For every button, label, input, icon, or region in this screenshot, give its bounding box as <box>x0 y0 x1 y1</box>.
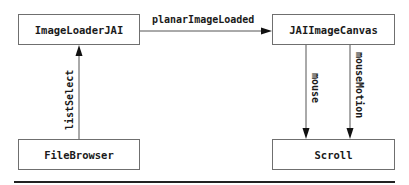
node-label: Scroll <box>315 149 353 161</box>
node-jai-image-canvas[interactable]: JAIImageCanvas <box>272 14 395 45</box>
edge-label-list-select: listSelect <box>64 70 75 130</box>
node-scroll[interactable]: Scroll <box>272 139 395 170</box>
bottom-divider <box>14 181 395 183</box>
edge-list-select <box>76 45 83 139</box>
node-label: JAIImageCanvas <box>289 24 378 36</box>
arrowhead-up-icon <box>76 45 83 56</box>
edge-planar-image-loaded <box>140 28 272 35</box>
node-image-loader-jai[interactable]: ImageLoaderJAI <box>18 14 140 45</box>
arrowhead-right-icon <box>261 28 272 35</box>
edge-label-planar-image-loaded: planarImageLoaded <box>152 14 254 25</box>
arrowhead-down-icon <box>347 128 354 139</box>
component-diagram: ImageLoaderJAI JAIImageCanvas FileBrowse… <box>0 0 409 185</box>
node-label: ImageLoaderJAI <box>35 24 124 36</box>
edge-mouse-motion <box>347 45 354 139</box>
edge-label-mouse: mouse <box>310 73 321 103</box>
edge-mouse <box>303 45 310 139</box>
node-label: FileBrowser <box>44 149 114 161</box>
node-file-browser[interactable]: FileBrowser <box>18 139 140 170</box>
arrowhead-down-icon <box>303 128 310 139</box>
edge-label-mouse-motion: mouseMotion <box>354 52 365 118</box>
